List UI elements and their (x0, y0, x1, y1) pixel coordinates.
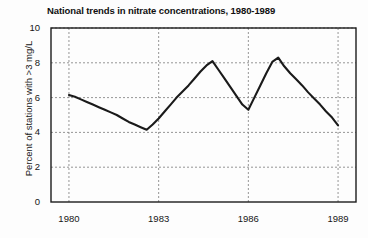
chart-figure: National trends in nitrate concentration… (0, 0, 368, 238)
plot-area (0, 0, 368, 238)
plot-border (51, 28, 356, 202)
data-series-line (69, 58, 338, 130)
gridlines-horizontal (51, 28, 356, 167)
gridlines-vertical (69, 28, 338, 202)
